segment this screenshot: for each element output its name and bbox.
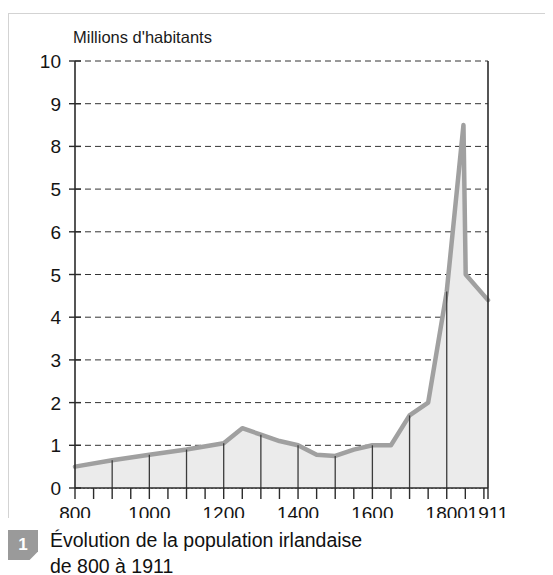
x-tick-label: 1800 <box>426 503 468 518</box>
x-tick-label: 1911 <box>468 503 509 518</box>
caption-line-2: de 800 à 1911 <box>50 553 362 575</box>
figure-number-badge: 1 <box>8 530 38 560</box>
chart-svg: Millions d'habitants 109856543210 800100… <box>9 14 545 518</box>
y-tick-label: 0 <box>50 478 61 499</box>
y-tick-label: 8 <box>50 136 61 157</box>
x-tick-label: 1200 <box>203 503 245 518</box>
y-tick-label: 5 <box>50 265 61 286</box>
x-tick-label: 1400 <box>277 503 319 518</box>
x-tick-label: 1000 <box>128 503 170 518</box>
y-tick-label: 9 <box>50 94 61 115</box>
x-tick-label: 800 <box>59 503 91 518</box>
y-tick-label: 3 <box>50 350 61 371</box>
y-tick-label: 4 <box>50 307 61 328</box>
x-tick-label: 1600 <box>351 503 393 518</box>
y-tick-label: 1 <box>50 435 61 456</box>
y-tick-label: 2 <box>50 393 61 414</box>
caption-text-block: Évolution de la population irlandaise de… <box>50 527 362 575</box>
y-tick-label: 10 <box>40 51 61 72</box>
y-tick-label: 5 <box>50 179 61 200</box>
y-tick-label: 6 <box>50 222 61 243</box>
population-chart: Millions d'habitants 109856543210 800100… <box>9 14 545 518</box>
caption-line-1: Évolution de la population irlandaise <box>50 527 362 553</box>
figure-card: Millions d'habitants 109856543210 800100… <box>8 13 545 518</box>
y-axis-title: Millions d'habitants <box>73 28 212 46</box>
figure-caption: 1 Évolution de la population irlandaise … <box>8 527 548 575</box>
